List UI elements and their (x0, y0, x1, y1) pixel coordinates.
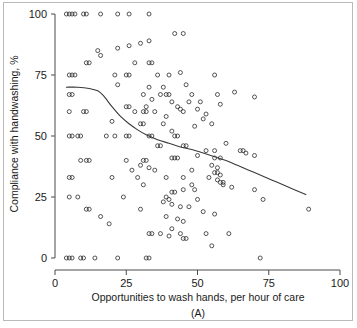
x-tick-label: 0 (52, 277, 58, 289)
y-tick-label: 0 (41, 252, 47, 264)
x-tick-label: 50 (191, 277, 203, 289)
x-axis-ticks: 0255075100 (52, 270, 349, 289)
x-tick-label: 25 (120, 277, 132, 289)
y-tick-label: 100 (29, 8, 47, 20)
x-tick-label: 75 (263, 277, 275, 289)
plot-background (55, 10, 340, 258)
x-tick-label: 100 (331, 277, 349, 289)
x-axis-title: Opportunities to wash hands, per hour of… (91, 291, 304, 303)
panel-caption: (A) (191, 307, 205, 319)
scatter-chart: 0255075100 0255075100 Compliance with ha… (0, 0, 357, 328)
y-tick-label: 25 (35, 191, 47, 203)
y-tick-label: 50 (35, 130, 47, 142)
y-axis-title: Compliance with handwashing, % (8, 55, 20, 212)
y-tick-label: 75 (35, 69, 47, 81)
figure-root: 0255075100 0255075100 Compliance with ha… (0, 0, 357, 328)
y-axis-ticks: 0255075100 (29, 8, 55, 264)
